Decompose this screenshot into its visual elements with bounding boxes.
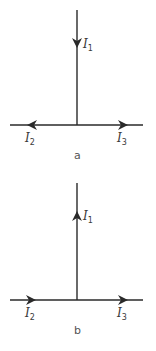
label-i2-a: I2 [25,132,35,147]
diagram-a [10,10,143,130]
label-i3-b: I3 [117,307,127,322]
caption-b: b [74,325,81,336]
caption-a: a [74,150,81,161]
label-i1-b: I1 [83,210,93,225]
diagram-b [10,183,143,305]
label-i1-a: I1 [83,38,93,53]
current-junction-diagrams [0,0,156,351]
label-i2-b: I2 [25,307,35,322]
label-i3-a: I3 [117,132,127,147]
